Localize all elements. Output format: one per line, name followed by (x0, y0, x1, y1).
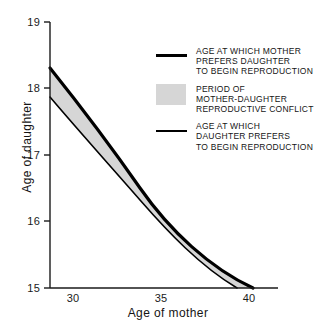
legend-item-mother-preference: AGE AT WHICH MOTHER PREFERS DAUGHTER TO … (156, 46, 328, 77)
legend-line-1: AGE AT WHICH MOTHER (196, 46, 328, 56)
legend-line-2: PREFERS DAUGHTER (196, 56, 328, 66)
legend-label-conflict-period: PERIOD OF MOTHER-DAUGHTER REPRODUCTIVE C… (196, 84, 328, 115)
x-tick-label-35: 35 (146, 292, 176, 304)
legend-line-2: DAUGHTER PREFERS (196, 131, 328, 141)
legend-line-1: PERIOD OF (196, 84, 328, 94)
chart-legend: AGE AT WHICH MOTHER PREFERS DAUGHTER TO … (156, 46, 328, 159)
gray-swatch-icon (156, 84, 187, 107)
gray-swatch-box (156, 84, 186, 105)
legend-item-daughter-preference: AGE AT WHICH DAUGHTER PREFERS TO BEGIN R… (156, 121, 328, 152)
x-axis-title: Age of mother (88, 306, 248, 320)
y-axis-title: Age of daughter (20, 82, 34, 212)
y-tick-label-15: 15 (18, 282, 40, 294)
thin-line-swatch-icon (156, 121, 187, 144)
legend-key-gray-swatch (156, 84, 187, 107)
x-tick-label-40: 40 (234, 292, 264, 304)
legend-line-1: AGE AT WHICH (196, 121, 328, 131)
y-tick-label-19: 19 (18, 16, 40, 28)
legend-line-3: TO BEGIN REPRODUCTION (196, 66, 328, 76)
chart-figure: 19 18 17 16 15 30 35 40 Age of mother Ag… (0, 0, 329, 331)
legend-line-3: REPRODUCTIVE CONFLICT (196, 104, 328, 114)
thick-line-swatch-icon (156, 46, 187, 69)
legend-line-3: TO BEGIN REPRODUCTION (196, 142, 328, 152)
legend-key-thin-line (156, 121, 187, 144)
y-tick-label-16: 16 (18, 215, 40, 227)
legend-line-2: MOTHER-DAUGHTER (196, 94, 328, 104)
legend-key-thick-line (156, 46, 187, 69)
legend-item-conflict-period: PERIOD OF MOTHER-DAUGHTER REPRODUCTIVE C… (156, 84, 328, 115)
legend-label-mother-preference: AGE AT WHICH MOTHER PREFERS DAUGHTER TO … (196, 46, 328, 77)
legend-label-daughter-preference: AGE AT WHICH DAUGHTER PREFERS TO BEGIN R… (196, 121, 328, 152)
x-tick-label-30: 30 (58, 292, 88, 304)
